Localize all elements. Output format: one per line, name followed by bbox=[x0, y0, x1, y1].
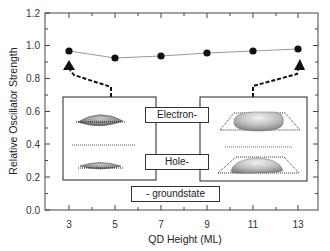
data-point-13 bbox=[294, 45, 301, 52]
electron-label: Electron- bbox=[145, 107, 209, 123]
data-point-7 bbox=[157, 52, 164, 59]
groundstate-label: - groundstate bbox=[131, 186, 220, 202]
svg-text:0.4: 0.4 bbox=[26, 139, 40, 150]
data-point-9 bbox=[203, 49, 210, 56]
inset-right-13ml bbox=[200, 97, 307, 181]
y-axis-label: Relative Oscillator Strength bbox=[7, 46, 19, 176]
svg-text:13: 13 bbox=[292, 219, 304, 230]
data-point-5 bbox=[111, 54, 118, 61]
x-tick-labels: 3 5 7 9 11 13 bbox=[66, 219, 304, 230]
svg-text:3: 3 bbox=[66, 219, 72, 230]
inset-left-3ml bbox=[63, 97, 156, 180]
data-markers bbox=[65, 45, 301, 61]
chart-canvas: 0.0 0.2 0.4 0.6 0.8 1.0 1.2 3 5 7 9 11 1… bbox=[0, 0, 330, 251]
svg-text:5: 5 bbox=[112, 219, 118, 230]
data-point-11 bbox=[249, 47, 256, 54]
svg-text:0.2: 0.2 bbox=[26, 172, 40, 183]
svg-text:0.8: 0.8 bbox=[26, 73, 40, 84]
svg-text:0.6: 0.6 bbox=[26, 106, 40, 117]
x-axis-label: QD Height (ML) bbox=[0, 233, 330, 245]
svg-text:11: 11 bbox=[248, 219, 259, 230]
data-series-line bbox=[69, 49, 298, 58]
svg-text:1.0: 1.0 bbox=[26, 40, 40, 51]
data-point-3 bbox=[65, 47, 72, 54]
y-tick-labels: 0.0 0.2 0.4 0.6 0.8 1.0 1.2 bbox=[26, 8, 40, 216]
svg-text:0.0: 0.0 bbox=[26, 205, 40, 216]
hole-label: Hole- bbox=[145, 154, 209, 170]
dashed-arrow-right bbox=[253, 59, 305, 97]
svg-text:7: 7 bbox=[158, 219, 164, 230]
svg-text:9: 9 bbox=[204, 219, 210, 230]
svg-text:1.2: 1.2 bbox=[26, 8, 40, 19]
dashed-arrow-left bbox=[63, 60, 111, 97]
